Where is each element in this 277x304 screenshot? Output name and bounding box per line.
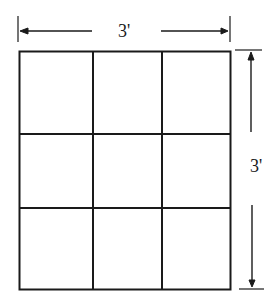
width-label: 3' (118, 21, 130, 41)
grid-outline (20, 52, 231, 290)
arrow-up-icon (248, 52, 254, 60)
grid-diagram: 3' 3' (0, 0, 277, 304)
height-label: 3' (250, 156, 262, 176)
square-grid (19, 51, 231, 290)
arrow-left-icon (20, 28, 28, 34)
arrow-right-icon (221, 28, 228, 34)
arrow-down-icon (249, 280, 255, 287)
